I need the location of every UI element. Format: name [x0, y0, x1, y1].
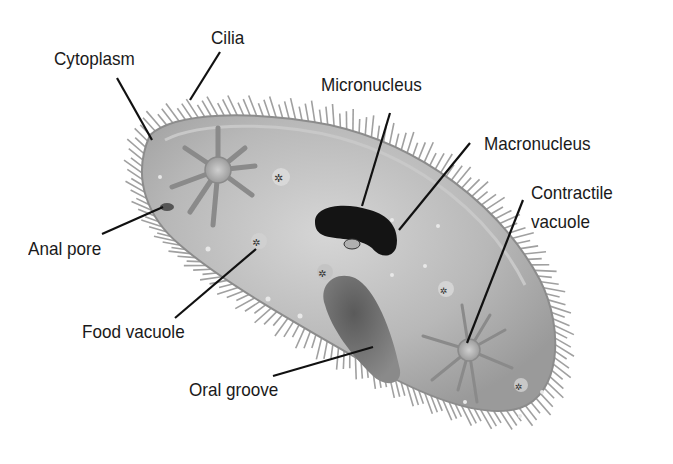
micronucleus-shape: [344, 239, 360, 249]
label-cytoplasm: Cytoplasm: [54, 48, 135, 70]
svg-text:✲: ✲: [515, 382, 523, 392]
label-food-vacuole: Food vacuole: [82, 321, 185, 343]
label-contractile-vacuole-1: Contractile: [531, 182, 613, 204]
label-oral-groove: Oral groove: [189, 379, 278, 401]
label-micronucleus: Micronucleus: [321, 74, 422, 96]
label-anal-pore: Anal pore: [28, 238, 101, 260]
svg-text:✲: ✲: [252, 237, 260, 248]
svg-text:✲: ✲: [274, 172, 283, 184]
label-contractile-vacuole-2: vacuole: [531, 211, 590, 233]
svg-text:✲: ✲: [318, 268, 326, 279]
label-macronucleus: Macronucleus: [484, 133, 590, 155]
label-cilia: Cilia: [211, 27, 244, 49]
svg-text:✲: ✲: [440, 286, 448, 296]
